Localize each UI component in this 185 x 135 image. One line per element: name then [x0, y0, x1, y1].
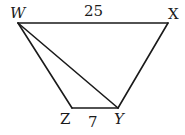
- trapezoid-diagram: W X Y Z 25 7: [0, 0, 185, 135]
- length-label-zy: 7: [88, 113, 98, 131]
- vertex-label-w: W: [10, 4, 27, 22]
- vertex-label-z: Z: [60, 110, 70, 128]
- vertex-label-x: X: [168, 5, 179, 23]
- segment-xy: [118, 23, 168, 108]
- length-label-wx: 25: [84, 2, 103, 20]
- diagonal-wy: [18, 23, 118, 108]
- vertex-label-y: Y: [114, 110, 126, 128]
- segment-zw: [18, 23, 72, 108]
